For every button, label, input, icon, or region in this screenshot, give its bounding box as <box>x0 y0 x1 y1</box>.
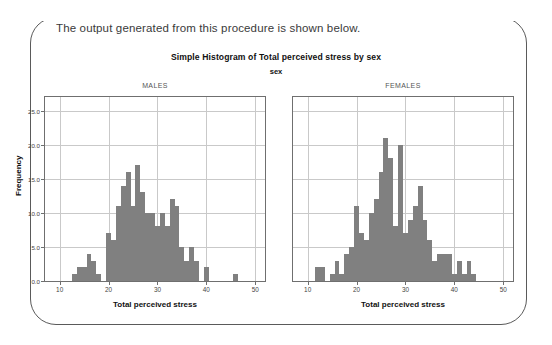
x-tick-label: 30 <box>154 286 161 293</box>
x-tick-label: 10 <box>304 286 311 293</box>
gridline-horizontal <box>293 213 513 214</box>
y-tick-mark <box>41 281 44 282</box>
chart-title: Simple Histogram of Total perceived stre… <box>0 52 552 62</box>
histogram-chart: MALES0.05.010.015.020.025.01020304050Tot… <box>44 82 514 312</box>
histogram-bar <box>233 274 238 281</box>
gridline-vertical <box>503 97 504 281</box>
x-tick-mark <box>405 282 406 285</box>
y-tick-label: 15.0 <box>28 175 40 182</box>
y-tick-label: 0.0 <box>31 278 40 285</box>
x-tick-mark <box>454 282 455 285</box>
x-tick-mark <box>60 282 61 285</box>
gridline-horizontal <box>45 145 265 146</box>
gridline-vertical <box>255 97 256 281</box>
y-tick-mark <box>41 111 44 112</box>
x-tick-label: 40 <box>451 286 458 293</box>
x-tick-label: 40 <box>203 286 210 293</box>
gridline-horizontal <box>45 213 265 214</box>
histogram-bar <box>320 267 325 281</box>
x-axis-title-females: Total perceived stress <box>292 300 514 309</box>
y-tick-label: 25.0 <box>28 107 40 114</box>
gridline-horizontal <box>293 145 513 146</box>
x-tick-label: 10 <box>56 286 63 293</box>
x-tick-label: 30 <box>402 286 409 293</box>
gridline-vertical <box>206 97 207 281</box>
gridline-horizontal <box>45 111 265 112</box>
plot-area-females <box>292 96 514 282</box>
x-tick-mark <box>357 282 358 285</box>
gridline-vertical <box>60 97 61 281</box>
y-tick-label: 5.0 <box>31 243 40 250</box>
histogram-bar <box>194 261 199 281</box>
histogram-bar <box>471 274 476 281</box>
x-tick-mark <box>206 282 207 285</box>
y-tick-mark <box>41 213 44 214</box>
chart-subtitle: sex <box>0 67 552 76</box>
y-tick-mark <box>41 247 44 248</box>
y-tick-mark <box>41 179 44 180</box>
y-axis-title: Frequency <box>14 156 23 196</box>
x-tick-mark <box>255 282 256 285</box>
x-tick-mark <box>109 282 110 285</box>
y-tick-label: 10.0 <box>28 209 40 216</box>
y-tick-label: 20.0 <box>28 141 40 148</box>
page-frame-top-clip <box>28 15 529 21</box>
gridline-horizontal <box>45 179 265 180</box>
x-tick-label: 50 <box>500 286 507 293</box>
x-tick-mark <box>308 282 309 285</box>
x-tick-label: 50 <box>252 286 259 293</box>
gridline-horizontal <box>293 179 513 180</box>
histogram-bar <box>96 274 101 281</box>
panel-header-males: MALES <box>44 82 266 89</box>
panel-header-females: FEMALES <box>292 82 514 89</box>
y-tick-mark <box>41 145 44 146</box>
x-tick-mark <box>503 282 504 285</box>
histogram-bar <box>204 267 209 281</box>
gridline-horizontal <box>293 111 513 112</box>
x-tick-mark <box>157 282 158 285</box>
plot-area-males <box>44 96 266 282</box>
gridline-vertical <box>308 97 309 281</box>
x-tick-label: 20 <box>105 286 112 293</box>
gridline-vertical <box>454 97 455 281</box>
x-tick-label: 20 <box>353 286 360 293</box>
x-axis-title-males: Total perceived stress <box>44 300 266 309</box>
caption-text: The output generated from this procedure… <box>56 22 360 34</box>
